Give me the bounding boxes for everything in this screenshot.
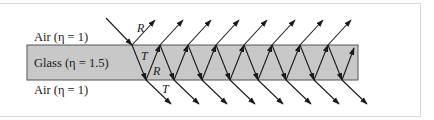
transmitted-ray: [202, 80, 227, 104]
transmitted-ray: [258, 80, 283, 104]
reflected-ray: [300, 20, 323, 45]
label-air-bottom: Air (η = 1): [34, 84, 88, 97]
label-reflected: R: [137, 22, 144, 34]
transmitted-ray: [342, 80, 367, 104]
incident-ray: [106, 18, 132, 45]
label-glass: Glass (η = 1.5): [34, 57, 109, 70]
reflected-ray: [272, 20, 295, 45]
label-air-top: Air (η = 1): [34, 31, 88, 44]
reflected-ray: [244, 20, 267, 45]
reflected-ray: [328, 20, 351, 45]
transmitted-ray: [230, 80, 255, 104]
label-transmitted-out: T: [162, 83, 169, 95]
transmitted-ray: [174, 80, 199, 104]
reflected-ray: [160, 20, 183, 45]
label-transmitted-in: T: [141, 50, 148, 62]
reflected-ray: [188, 20, 211, 45]
transmitted-ray: [314, 80, 339, 104]
transmitted-ray: [286, 80, 311, 104]
reflected-ray: [216, 20, 239, 45]
label-reflected-in: R: [153, 65, 160, 77]
